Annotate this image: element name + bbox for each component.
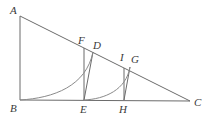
side-bc-line: [20, 100, 190, 101]
point-label-d: D: [93, 40, 101, 51]
geometry-figure: A B C D E F G H I: [0, 0, 207, 123]
point-label-g: G: [131, 54, 139, 65]
arc-e-to-g-curve: [84, 67, 130, 100]
vertex-label-b: B: [10, 103, 17, 114]
point-label-i: I: [120, 52, 124, 63]
chord-ed-line: [84, 52, 93, 100]
point-label-f: F: [78, 35, 85, 46]
arc-b-to-d-curve: [20, 52, 93, 100]
point-label-h: H: [119, 104, 127, 115]
vertex-label-a: A: [10, 5, 17, 16]
geometry-canvas: [0, 0, 207, 123]
point-label-e: E: [80, 104, 87, 115]
hypotenuse-ac-line: [20, 16, 190, 101]
vertex-label-c: C: [194, 97, 201, 108]
